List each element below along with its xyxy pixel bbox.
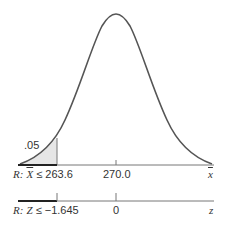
region-variable: X — [26, 168, 33, 180]
alpha-area-label: .05 — [24, 140, 39, 151]
region-relation: ≤ −1.645 — [36, 204, 79, 216]
xbar-axis-symbol: x — [208, 169, 213, 180]
region-prefix: R: — [13, 168, 23, 180]
xbar-region-label: R: X ≤ 263.6 — [13, 169, 73, 180]
diagram-canvas — [0, 0, 227, 227]
region-prefix: R: — [13, 204, 23, 216]
region-variable: Z — [26, 204, 32, 216]
z-region-label: R: Z ≤ −1.645 — [13, 205, 79, 216]
z-axis-symbol: z — [209, 205, 213, 216]
region-relation: ≤ 263.6 — [36, 168, 73, 180]
xbar-center-label: 270.0 — [103, 169, 131, 180]
z-center-label: 0 — [113, 205, 119, 216]
normal-curve — [20, 14, 212, 164]
